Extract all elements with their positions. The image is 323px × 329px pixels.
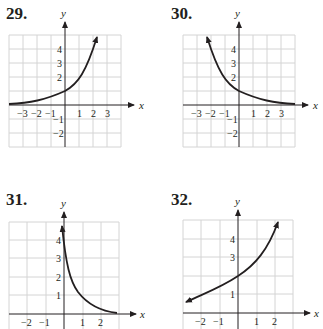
x-tick: −2 <box>31 108 42 119</box>
y-tick: 4 <box>56 235 61 246</box>
x-tick: 2 <box>91 108 96 119</box>
y-axis-label: y <box>234 7 240 19</box>
x-tick: 2 <box>98 317 103 328</box>
x-axis-label: x <box>312 99 318 111</box>
graph-29: y x −3 −2 −1 1 2 3 4 3 2 −1 −2 <box>9 7 144 147</box>
x-tick: 2 <box>272 316 277 327</box>
y-tick: 3 <box>230 252 235 263</box>
x-tick: 3 <box>105 108 110 119</box>
y-tick: 4 <box>230 234 235 245</box>
y-axis-label: y <box>234 195 240 207</box>
y-axis-label: y <box>60 197 66 209</box>
x-tick: 1 <box>254 316 259 327</box>
x-tick: −1 <box>213 316 224 327</box>
x-tick: −2 <box>205 108 216 119</box>
y-tick: 3 <box>56 253 61 264</box>
y-tick: 2 <box>57 72 62 83</box>
x-tick: −3 <box>17 108 28 119</box>
exponential-curve <box>62 226 117 313</box>
y-axis-label: y <box>60 7 66 19</box>
y-tick: 1 <box>230 289 235 300</box>
x-tick: 1 <box>80 317 85 328</box>
y-tick: 4 <box>57 44 62 55</box>
y-tick: 3 <box>231 58 236 69</box>
y-tick: −2 <box>53 128 64 139</box>
graph-30: y x −3 −2 −1 1 2 3 4 3 2 −1 −2 <box>183 7 318 147</box>
x-tick: −2 <box>195 316 206 327</box>
y-tick: 2 <box>56 272 61 283</box>
x-tick: 3 <box>279 108 284 119</box>
x-axis-label: x <box>313 307 319 319</box>
y-tick: 4 <box>231 44 236 55</box>
y-tick: 2 <box>231 72 236 83</box>
x-tick: −3 <box>191 108 202 119</box>
graph-32: y x −2 −1 1 2 4 3 1 <box>183 195 319 329</box>
x-axis-label: x <box>138 99 144 111</box>
x-tick: −2 <box>21 317 32 328</box>
x-tick: 1 <box>77 108 82 119</box>
exponential-curve <box>9 37 97 104</box>
graphs: y x −3 −2 −1 1 2 3 4 3 2 −1 −2 y x −3 −2… <box>0 0 323 329</box>
y-tick: −1 <box>53 114 64 125</box>
exponential-curve <box>207 37 295 104</box>
exponential-curve-right <box>238 222 278 276</box>
graph-31: y x −2 −1 1 2 4 3 2 1 <box>9 197 145 329</box>
x-tick: 2 <box>265 108 270 119</box>
x-axis-label: x <box>139 308 145 320</box>
y-tick: 3 <box>57 58 62 69</box>
x-tick: −1 <box>39 317 50 328</box>
y-tick: −2 <box>227 128 238 139</box>
x-tick: 1 <box>251 108 256 119</box>
y-tick: 1 <box>56 290 61 301</box>
y-tick: −1 <box>227 114 238 125</box>
